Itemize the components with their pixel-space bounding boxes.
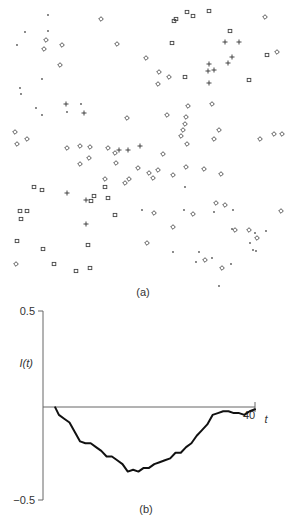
square-marker [41, 247, 45, 250]
diamond-marker [272, 132, 277, 137]
diamond-marker [165, 113, 170, 118]
dot-marker [218, 285, 220, 287]
dot-marker [80, 103, 82, 105]
diamond-marker [58, 63, 63, 68]
dot-marker [232, 209, 234, 211]
square-marker [170, 41, 174, 44]
diamond-marker [103, 177, 108, 182]
square-marker [89, 199, 93, 202]
diamond-marker [78, 144, 83, 149]
dot-marker [184, 186, 186, 188]
data-line [55, 407, 255, 471]
diamond-marker [87, 156, 92, 161]
x-axis-label: t [264, 413, 268, 425]
plus-marker [226, 61, 231, 66]
diamond-marker [185, 142, 190, 147]
diamond-marker [115, 42, 120, 47]
diamond-marker [114, 161, 119, 166]
square-marker [74, 269, 78, 272]
diamond-marker [183, 122, 188, 127]
diamond-marker [184, 165, 189, 170]
diamond-marker [275, 50, 280, 55]
diamond-marker [210, 102, 215, 107]
square-marker [113, 213, 117, 216]
y-axis-label: I(t) [20, 357, 34, 369]
line-chart-b: 0.5 −0.5 I(t) 40 t [13, 305, 268, 506]
dot-marker [41, 114, 43, 116]
square-marker [88, 266, 92, 269]
square-marker [19, 217, 23, 220]
square-marker [191, 14, 195, 17]
dot-marker [252, 249, 254, 251]
diamond-marker [156, 82, 161, 87]
diamond-marker [258, 137, 263, 142]
diamond-marker [125, 116, 130, 121]
diamond-marker [127, 177, 132, 182]
diamond-marker [202, 167, 207, 172]
diamond-marker [144, 56, 149, 61]
plus-marker [84, 222, 89, 227]
square-marker [92, 194, 96, 197]
dot-marker [47, 14, 49, 16]
square-marker [247, 78, 251, 81]
diamond-marker [145, 241, 150, 246]
diamond-marker [147, 171, 152, 176]
plus-marker [230, 55, 235, 60]
plus-marker [117, 148, 122, 153]
square-marker [228, 29, 232, 32]
dot-marker [265, 230, 267, 232]
square-marker [25, 209, 29, 212]
square-marker [207, 9, 211, 12]
diamond-marker [171, 225, 176, 230]
square-marker [32, 185, 36, 188]
plus-marker [65, 191, 70, 196]
diamond-marker [203, 258, 208, 263]
plus-marker [84, 198, 89, 203]
diamond-marker [25, 137, 30, 142]
panel-b-label: (b) [139, 503, 152, 515]
dot-marker [141, 209, 143, 211]
dot-marker [16, 44, 18, 46]
diamond-marker [171, 173, 176, 178]
dot-marker [231, 228, 233, 230]
diamond-marker [217, 128, 222, 133]
square-marker [103, 185, 107, 188]
square-marker [18, 209, 22, 212]
diamond-marker [156, 168, 161, 173]
plus-marker [207, 62, 212, 67]
diamond-marker [255, 236, 260, 241]
diamond-marker [151, 176, 156, 181]
dot-marker [41, 78, 43, 80]
diamond-marker [65, 146, 70, 151]
panel-a-label: (a) [136, 286, 149, 298]
plus-marker [223, 40, 228, 45]
diamond-marker [219, 172, 224, 177]
diamond-marker [42, 47, 47, 52]
diamond-marker [212, 137, 217, 142]
diamond-marker [184, 115, 189, 120]
scatter-plot-a [13, 9, 285, 287]
dot-marker [198, 251, 200, 253]
plus-marker [212, 68, 217, 73]
diamond-marker [157, 70, 162, 75]
square-marker [265, 53, 269, 56]
diamond-marker [233, 228, 238, 233]
plus-marker [138, 144, 143, 149]
plus-marker [82, 111, 87, 116]
diamond-marker [263, 15, 268, 20]
diamond-marker [186, 104, 191, 109]
diamond-marker [167, 75, 172, 80]
diamond-marker [99, 17, 104, 22]
dot-marker [211, 257, 213, 259]
diamond-marker [15, 142, 20, 147]
diamond-marker [223, 203, 228, 208]
figure: (a) 0.5 −0.5 I(t) 40 t (b) [0, 0, 286, 522]
dot-marker [47, 30, 49, 32]
square-marker [52, 262, 56, 265]
plus-marker [207, 81, 212, 86]
diamond-marker [181, 128, 186, 133]
dot-marker [249, 242, 251, 244]
square-marker [185, 10, 189, 13]
diamond-marker [13, 130, 18, 135]
diamond-marker [220, 266, 225, 271]
